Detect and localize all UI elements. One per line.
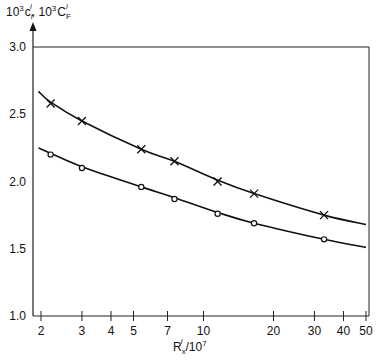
circle-marker-icon	[48, 152, 53, 157]
x-tick-label: 20	[267, 324, 281, 338]
y-tick-label: 2.0	[9, 175, 26, 189]
y-tick-label: 3.0	[9, 40, 26, 54]
cross-marker-icon	[137, 145, 145, 153]
x-tick-label: 10	[197, 324, 211, 338]
x-tick-label: 5	[130, 324, 137, 338]
cross-marker-icon	[170, 157, 178, 165]
x-tick-label: 40	[337, 324, 351, 338]
x-tick-label: 4	[108, 324, 115, 338]
circle-marker-icon	[215, 211, 220, 216]
x-axis-label: Rxi/107	[173, 337, 207, 356]
x-tick-label: 50	[359, 324, 373, 338]
y-tick-label: 1.0	[9, 309, 26, 323]
circle-marker-icon	[251, 221, 256, 226]
circle-marker-icon	[321, 237, 326, 242]
series-group	[38, 91, 366, 247]
x-tick-label: 30	[308, 324, 322, 338]
y-tick-label: 1.5	[9, 242, 26, 256]
x-tick-label: 2	[38, 324, 45, 338]
circle-marker-icon	[172, 196, 177, 201]
circle-marker-icon	[139, 184, 144, 189]
y-axis-ticks: 1.01.52.02.53.0	[9, 40, 26, 323]
x-tick-label: 7	[164, 324, 171, 338]
y-axis-label: 103cfi, 103CFi	[6, 2, 71, 21]
circle-marker-icon	[79, 165, 84, 170]
y-tick-label: 2.5	[9, 107, 26, 121]
cross-marker-icon	[78, 117, 86, 125]
cross-marker-icon	[250, 190, 258, 198]
series-line-0	[38, 91, 366, 224]
series-line-1	[38, 148, 366, 248]
chart: 1.01.52.02.53.0 234571020304050 103cfi, …	[0, 0, 379, 362]
y-axis-arrow-icon	[30, 22, 37, 31]
x-axis-ticks: 234571020304050	[38, 311, 373, 338]
x-tick-label: 3	[79, 324, 86, 338]
